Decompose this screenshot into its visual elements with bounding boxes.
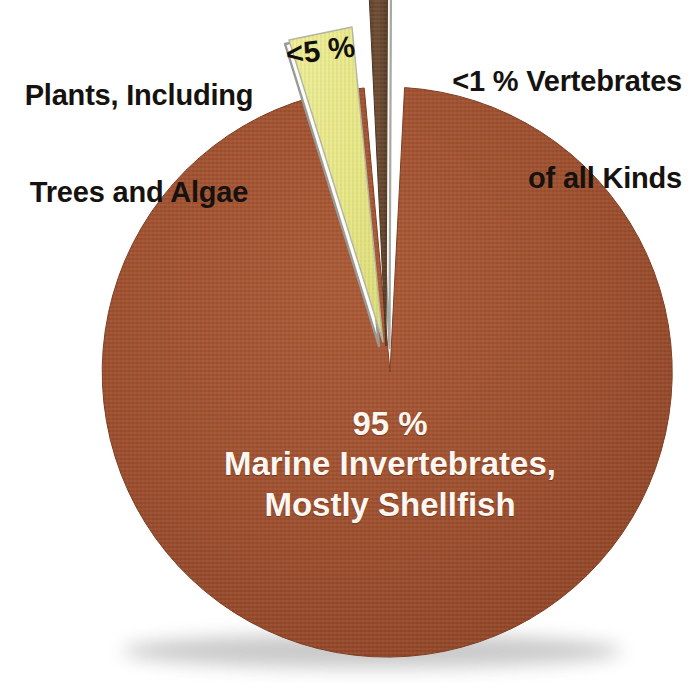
slice-label-vertebrates: <1 % Vertebrates of all Kinds [398,0,682,260]
slice-value-label-marine-invertebrates: 95 % [150,404,630,444]
slice-label-plants-line1: Plants, Including [8,79,270,111]
slice-label-marine-invertebrates: 95 % Marine Invertebrates, Mostly Shellf… [150,404,630,525]
slice-label-vertebrates-line2: of all Kinds [398,162,682,194]
slice-label-plants-line2: Trees and Algae [8,176,270,208]
slice-label-marine-invertebrates-line2: Marine Invertebrates, [150,444,630,484]
pie-chart-canvas: Plants, Including Trees and Algae <1 % V… [0,0,689,683]
slice-label-vertebrates-line1: <1 % Vertebrates [398,65,682,97]
slice-label-plants: Plants, Including Trees and Algae [8,14,270,274]
slice-label-marine-invertebrates-line3: Mostly Shellfish [150,485,630,525]
